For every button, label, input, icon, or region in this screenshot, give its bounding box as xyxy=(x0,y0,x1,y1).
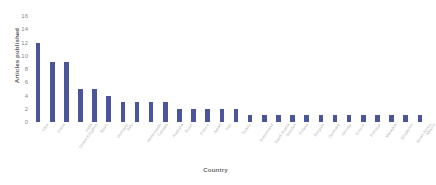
x-axis-tick-label: Turkey xyxy=(241,123,251,135)
bar[interactable] xyxy=(220,109,225,122)
bar-slot[interactable] xyxy=(271,16,285,122)
bar-slot[interactable] xyxy=(342,16,356,122)
bar[interactable] xyxy=(403,115,408,122)
y-axis-title: Articles published xyxy=(13,8,20,104)
bar-slot[interactable] xyxy=(399,16,413,122)
y-axis-tick-10: 10 xyxy=(21,53,28,59)
x-axis-tick-label: Belgium xyxy=(313,123,325,137)
bar-slot[interactable] xyxy=(187,16,201,122)
y-axis-tick-4: 4 xyxy=(25,93,28,99)
bar-slot[interactable] xyxy=(328,16,342,122)
y-axis-tick-8: 8 xyxy=(25,66,28,72)
x-axis-tick-label: Greece xyxy=(355,123,366,136)
bar-slot[interactable] xyxy=(201,16,215,122)
bar[interactable] xyxy=(304,115,309,122)
bar[interactable] xyxy=(64,62,69,122)
bar-series xyxy=(31,16,427,122)
bar-slot[interactable] xyxy=(144,16,158,122)
bar-slot[interactable] xyxy=(314,16,328,122)
bar-slot[interactable] xyxy=(385,16,399,122)
x-axis-tick-label: China xyxy=(57,123,66,134)
x-axis-tick-label: Portugal xyxy=(370,123,382,138)
bar-slot[interactable] xyxy=(130,16,144,122)
bar-slot[interactable] xyxy=(370,16,384,122)
bar-slot[interactable] xyxy=(286,16,300,122)
bar[interactable] xyxy=(36,43,41,123)
bar[interactable] xyxy=(234,109,239,122)
bar[interactable] xyxy=(361,115,366,122)
x-axis-tick-label: Singapore xyxy=(400,123,414,141)
bar-slot[interactable] xyxy=(59,16,73,122)
x-axis-tick-label: Brazil xyxy=(184,123,193,134)
plot-area: 1614121086420 xyxy=(31,16,427,122)
x-axis-tick-label: Malaysia xyxy=(384,123,397,139)
bar[interactable] xyxy=(163,102,168,122)
bar[interactable] xyxy=(92,89,97,122)
bar-slot[interactable] xyxy=(73,16,87,122)
bar-slot[interactable] xyxy=(300,16,314,122)
bar-slot[interactable] xyxy=(158,16,172,122)
bar[interactable] xyxy=(389,115,394,122)
bar[interactable] xyxy=(191,109,196,122)
x-axis-tick-label: Poland xyxy=(298,123,309,136)
x-axis-tick-label: Switzerland xyxy=(259,123,274,143)
x-axis-tick-label: Norway xyxy=(341,123,352,137)
bar-slot[interactable] xyxy=(215,16,229,122)
bar[interactable] xyxy=(276,115,281,122)
x-axis-tick-label: Italy xyxy=(126,123,134,132)
bar-slot[interactable] xyxy=(31,16,45,122)
bar[interactable] xyxy=(50,62,55,122)
bar-slot[interactable] xyxy=(257,16,271,122)
y-axis-tick-0: 0 xyxy=(25,119,28,125)
bar[interactable] xyxy=(121,102,126,122)
y-axis-tick-2: 2 xyxy=(25,106,28,112)
y-axis-tick-14: 14 xyxy=(21,26,28,32)
bar-slot[interactable] xyxy=(413,16,427,122)
x-axis-tick-label: Spain xyxy=(99,123,108,134)
bar-slot[interactable] xyxy=(356,16,370,122)
x-axis-title: Country xyxy=(0,166,431,173)
x-axis-tick-label: Iran xyxy=(225,123,232,131)
bar[interactable] xyxy=(149,102,154,122)
bar-slot[interactable] xyxy=(116,16,130,122)
x-axis-tick-label: Denmark xyxy=(328,123,341,139)
bar[interactable] xyxy=(319,115,324,122)
bar-slot[interactable] xyxy=(172,16,186,122)
bar-slot[interactable] xyxy=(243,16,257,122)
bar-slot[interactable] xyxy=(229,16,243,122)
bar[interactable] xyxy=(418,115,423,122)
bar-slot[interactable] xyxy=(102,16,116,122)
bar[interactable] xyxy=(248,115,253,122)
bar[interactable] xyxy=(135,102,140,122)
bar[interactable] xyxy=(375,115,380,122)
y-axis-tick-16: 16 xyxy=(21,13,28,19)
x-axis-tick-label: Japan xyxy=(213,123,223,134)
x-axis-tick-labels: USAChinaUnited KingdomIndiaSpainGermanyI… xyxy=(31,123,427,167)
bar[interactable] xyxy=(262,115,267,122)
y-axis-tick-6: 6 xyxy=(25,79,28,85)
y-axis-tick-12: 12 xyxy=(21,40,28,46)
bar[interactable] xyxy=(106,96,111,123)
bar-slot[interactable] xyxy=(45,16,59,122)
bar[interactable] xyxy=(78,89,83,122)
bar[interactable] xyxy=(177,109,182,122)
bar[interactable] xyxy=(205,109,210,122)
x-axis-tick-label: USA xyxy=(42,123,50,132)
x-axis-tick-label: France xyxy=(199,123,210,136)
bar-slot[interactable] xyxy=(88,16,102,122)
